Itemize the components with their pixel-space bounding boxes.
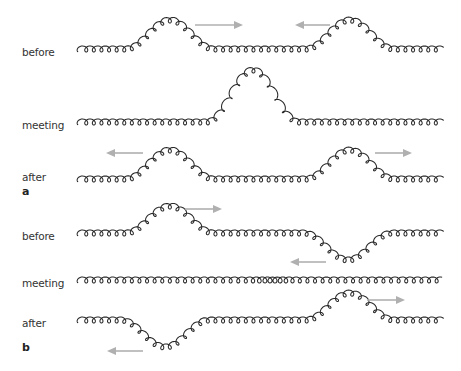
spring-b-before xyxy=(77,203,444,262)
panel-label-b: b xyxy=(22,342,30,353)
arrow-left-icon xyxy=(107,347,143,355)
arrow-right-icon xyxy=(375,149,412,157)
arrow-left-icon xyxy=(106,149,143,157)
arrow-right-icon xyxy=(195,21,243,29)
spring-b-meeting xyxy=(77,277,442,283)
spring-a-before xyxy=(77,17,444,52)
spring-b-after xyxy=(77,290,444,350)
arrow-left-icon xyxy=(290,258,326,266)
arrow-right-icon xyxy=(185,205,222,213)
spring-drawing-canvas xyxy=(0,0,461,371)
row-label-a-before: before xyxy=(22,47,55,58)
row-label-b-before: before xyxy=(22,231,55,242)
row-label-a-meeting: meeting xyxy=(22,120,64,131)
arrow-left-icon xyxy=(295,21,330,29)
wave-superposition-figure: before meeting after a before meeting af… xyxy=(0,0,461,371)
row-label-a-after: after xyxy=(22,172,46,183)
panel-label-a: a xyxy=(22,186,29,197)
row-label-b-after: after xyxy=(22,318,46,329)
spring-a-meeting xyxy=(77,68,444,125)
row-label-b-meeting: meeting xyxy=(22,278,64,289)
